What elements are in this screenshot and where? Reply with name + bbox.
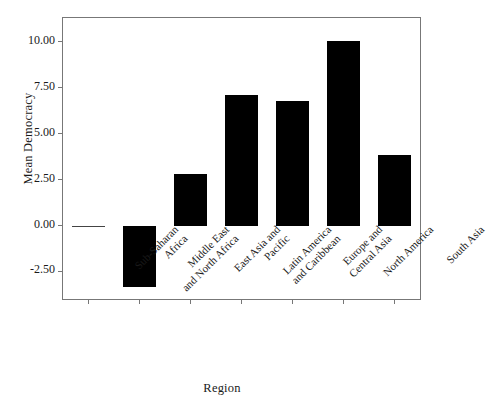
- x-tick-mark: [190, 299, 191, 304]
- bar: [174, 174, 207, 225]
- y-tick-mark: [58, 133, 63, 134]
- bar: [327, 41, 360, 226]
- y-tick-label: 5.00: [34, 125, 55, 140]
- y-tick-mark: [58, 41, 63, 42]
- y-tick-mark: [58, 225, 63, 226]
- bar: [72, 226, 105, 228]
- x-tick-mark: [292, 299, 293, 304]
- x-tick-mark: [241, 299, 242, 304]
- bar: [276, 101, 309, 226]
- x-tick-mark: [343, 299, 344, 304]
- bar: [225, 95, 258, 225]
- y-tick-label: 7.50: [34, 79, 55, 94]
- y-tick-mark: [58, 271, 63, 272]
- y-tick-label: -2.50: [30, 262, 55, 277]
- bar: [378, 155, 411, 226]
- y-tick-label: 10.00: [28, 33, 55, 48]
- y-tick-label: 2.50: [34, 171, 55, 186]
- y-tick-mark: [58, 87, 63, 88]
- x-tick-mark: [88, 299, 89, 304]
- y-tick-label: 0.00: [34, 217, 55, 232]
- x-tick-mark: [139, 299, 140, 304]
- x-tick-mark: [394, 299, 395, 304]
- plot-area: -2.500.002.505.007.5010.00Sub-SaharanAfr…: [62, 17, 421, 300]
- x-axis-title: Region: [0, 381, 444, 396]
- y-tick-mark: [58, 179, 63, 180]
